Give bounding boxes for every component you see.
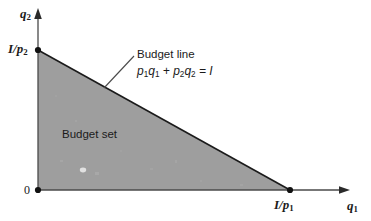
equation-income: I [209,64,212,78]
equation-equals-operator: = [196,64,210,78]
equation-p1: p [137,64,144,78]
x-intercept-label: I/p1 [274,198,294,211]
y-intercept-label: I/p2 [8,42,28,55]
axis-label-q2-main: q [20,6,27,21]
equation-plus-operator: + [159,64,173,78]
equation-q1-subscript: 1 [155,70,160,79]
budget-line-equation: p1q1 + p2q2 = I [137,65,213,77]
y-intercept-point [35,47,41,53]
equation-q1: q [148,64,155,78]
equation-p1-subscript: 1 [144,70,149,79]
equation-p2: p [173,64,180,78]
axis-label-q2-subscript: 2 [27,12,31,22]
equation-q2-subscript: 2 [191,70,196,79]
x-intercept-label-subscript: 1 [289,203,293,213]
diagram-canvas [0,0,371,221]
x-intercept-point [287,187,293,193]
annotation-leader-line [104,56,134,88]
equation-p2-subscript: 2 [180,70,185,79]
y-axis-arrowhead [34,8,42,19]
y-intercept-label-main: I/p [8,41,23,56]
budget-constraint-figure: q2 q1 I/p2 I/p1 0 Budget line p1q1 + p2q… [0,0,371,221]
budget-set-fleck [80,168,86,173]
axis-label-q2: q2 [20,7,31,20]
budget-line-annotation-title: Budget line [137,49,195,61]
axis-label-q1-main: q [347,198,354,213]
x-intercept-label-main: I/p [274,197,289,212]
axis-label-q1: q1 [347,199,358,212]
origin-point [35,187,41,193]
x-axis-arrowhead [339,186,350,194]
budget-set-label: Budget set [62,129,117,141]
axis-label-q1-subscript: 1 [354,204,358,214]
y-intercept-label-subscript: 2 [23,47,27,57]
origin-label: 0 [24,184,30,196]
